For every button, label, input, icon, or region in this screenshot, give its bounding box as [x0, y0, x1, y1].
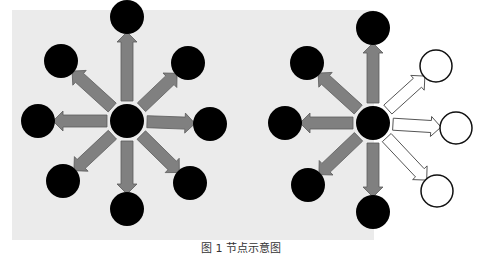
hollow-node-top-right [420, 50, 452, 82]
filled-node-bottom-left [291, 168, 325, 202]
filled-node-top [356, 11, 390, 45]
filled-node-bottom-left [46, 164, 80, 198]
filled-node-top-left [290, 46, 324, 80]
filled-node-bottom-right [173, 166, 207, 200]
filled-node-top-right [171, 46, 205, 80]
center-node [110, 104, 144, 138]
center-node [356, 106, 390, 140]
filled-node-top [110, 0, 144, 34]
filled-node-left [268, 106, 302, 140]
filled-node-bottom [356, 195, 390, 229]
filled-node-bottom [110, 192, 144, 226]
hollow-node-bottom-right [421, 175, 453, 207]
filled-node-top-left [44, 44, 78, 78]
hollow-arrow-icon [382, 134, 427, 181]
hollow-arrow-icon [393, 117, 441, 137]
figure-caption: 图 1 节点示意图 [0, 243, 482, 255]
filled-node-right [193, 107, 227, 141]
hollow-node-right [440, 112, 472, 144]
filled-node-left [21, 104, 55, 138]
hollow-arrow-icon [384, 75, 425, 114]
